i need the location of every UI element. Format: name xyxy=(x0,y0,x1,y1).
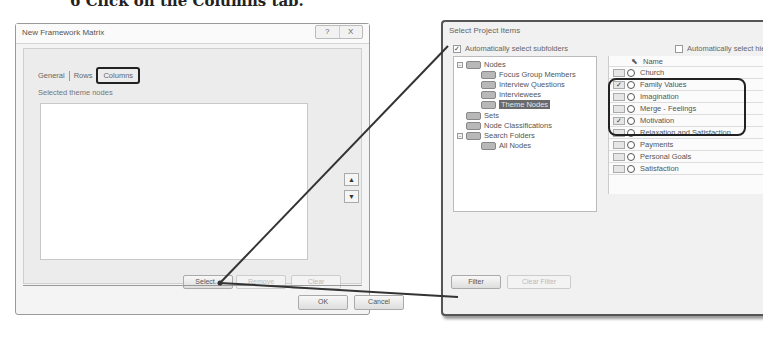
node-icon xyxy=(627,69,635,77)
tree-item-node-classifications[interactable]: Node Classifications xyxy=(466,121,552,130)
select-project-items-dialog: Select Project Items ✓ Automatically sel… xyxy=(441,20,763,316)
dialog-title: Select Project Items xyxy=(449,26,520,35)
tree-item-focus-group-members[interactable]: Focus Group Members xyxy=(481,70,576,79)
sort-icon: ⬉ xyxy=(631,57,638,66)
row-checkbox[interactable] xyxy=(613,153,625,161)
auto-select-hierarchy-option[interactable]: Automatically select hie xyxy=(675,44,763,53)
tree-item-all-nodes[interactable]: All Nodes xyxy=(481,141,531,150)
dialog-content: General Rows Columns Selected theme node… xyxy=(23,48,362,284)
row-checkbox[interactable] xyxy=(613,141,625,149)
ok-button[interactable]: OK xyxy=(298,295,348,310)
arrow-down-icon: ▼ xyxy=(348,193,355,200)
folder-icon xyxy=(481,71,496,79)
node-icon xyxy=(627,81,635,89)
instruction-caption: 6 Click on the Columns tab. xyxy=(70,0,304,10)
dialog-title: New Framework Matrix xyxy=(22,28,104,37)
grid-row[interactable]: Personal Goals xyxy=(609,151,763,163)
node-icon xyxy=(627,165,635,173)
collapse-icon[interactable]: − xyxy=(457,62,463,68)
grid-row[interactable]: Relaxation and Satisfaction xyxy=(609,127,763,139)
node-icon xyxy=(627,105,635,113)
folder-icon xyxy=(481,81,496,89)
grid-row[interactable]: ✓Motivation xyxy=(609,115,763,127)
row-checkbox[interactable] xyxy=(613,165,625,173)
tree-item-interview-questions[interactable]: Interview Questions xyxy=(481,80,565,89)
tab-strip: General Rows Columns xyxy=(34,67,140,84)
close-button[interactable]: X xyxy=(339,26,363,38)
folder-icon xyxy=(466,122,481,130)
folder-icon xyxy=(481,142,496,150)
tab-general[interactable]: General xyxy=(34,69,69,82)
folder-icon xyxy=(481,101,496,109)
node-icon xyxy=(627,153,635,161)
row-checkbox[interactable] xyxy=(613,105,625,113)
auto-select-hierarchy-label: Automatically select hie xyxy=(687,44,763,53)
tab-rows[interactable]: Rows xyxy=(70,69,97,82)
tree-item-interviewees[interactable]: Interviewees xyxy=(481,90,541,99)
selected-nodes-list[interactable] xyxy=(40,103,308,260)
clear-filter-button[interactable]: Clear Filter xyxy=(507,275,571,289)
folder-icon xyxy=(481,91,496,99)
title-bar: New Framework Matrix ? X xyxy=(16,24,369,44)
folder-icon xyxy=(466,112,481,120)
row-checkbox[interactable]: ✓ xyxy=(613,117,625,125)
auto-select-subfolders-label: Automatically select subfolders xyxy=(465,44,568,53)
auto-select-subfolders-option[interactable]: ✓ Automatically select subfolders xyxy=(453,44,568,53)
move-down-button[interactable]: ▼ xyxy=(344,190,359,203)
row-checkbox[interactable] xyxy=(613,69,625,77)
folder-icon xyxy=(466,61,481,69)
node-icon xyxy=(627,93,635,101)
tree-item-sets[interactable]: Sets xyxy=(466,111,499,120)
grid-row[interactable]: Merge - Feelings xyxy=(609,103,763,115)
grid-row[interactable]: Church xyxy=(609,67,763,79)
node-icon xyxy=(627,117,635,125)
footer-divider xyxy=(23,285,362,286)
row-checkbox[interactable]: ✓ xyxy=(613,81,625,89)
select-button[interactable]: Select... xyxy=(183,275,233,289)
checkbox-icon[interactable] xyxy=(675,45,683,53)
move-up-button[interactable]: ▲ xyxy=(344,173,359,186)
arrow-up-icon: ▲ xyxy=(348,176,355,183)
grid-row[interactable]: Payments xyxy=(609,139,763,151)
selected-nodes-label: Selected theme nodes xyxy=(38,88,113,97)
filter-button[interactable]: Filter xyxy=(451,275,501,289)
folder-tree: − Nodes Focus Group Members Interview Qu… xyxy=(453,56,597,212)
column-header-name[interactable]: Name xyxy=(643,57,663,66)
grid-header[interactable]: ⬉ Name xyxy=(609,56,763,67)
row-checkbox[interactable] xyxy=(613,129,625,137)
collapse-icon[interactable]: − xyxy=(457,133,463,139)
remove-button[interactable]: Remove xyxy=(236,275,286,289)
grid-row[interactable]: Imagination xyxy=(609,91,763,103)
tab-columns[interactable]: Columns xyxy=(96,67,140,84)
folder-icon xyxy=(466,132,481,140)
node-icon xyxy=(627,141,635,149)
window-buttons: ? X xyxy=(315,25,363,39)
row-checkbox[interactable] xyxy=(613,93,625,101)
new-framework-matrix-dialog: New Framework Matrix ? X General Rows Co… xyxy=(15,23,370,315)
clear-button[interactable]: Clear xyxy=(291,275,341,289)
help-button[interactable]: ? xyxy=(316,26,339,38)
items-grid: ⬉ Name Church ✓Family Values Imagination… xyxy=(608,56,763,194)
tree-item-nodes[interactable]: − Nodes xyxy=(457,60,506,69)
grid-row[interactable]: Satisfaction xyxy=(609,163,763,175)
tree-item-search-folders[interactable]: − Search Folders xyxy=(457,131,535,140)
tree-item-theme-nodes[interactable]: Theme Nodes xyxy=(481,100,550,109)
grid-row[interactable]: ✓Family Values xyxy=(609,79,763,91)
checkbox-checked-icon[interactable]: ✓ xyxy=(453,45,461,53)
node-icon xyxy=(627,129,635,137)
cancel-button[interactable]: Cancel xyxy=(354,295,404,310)
